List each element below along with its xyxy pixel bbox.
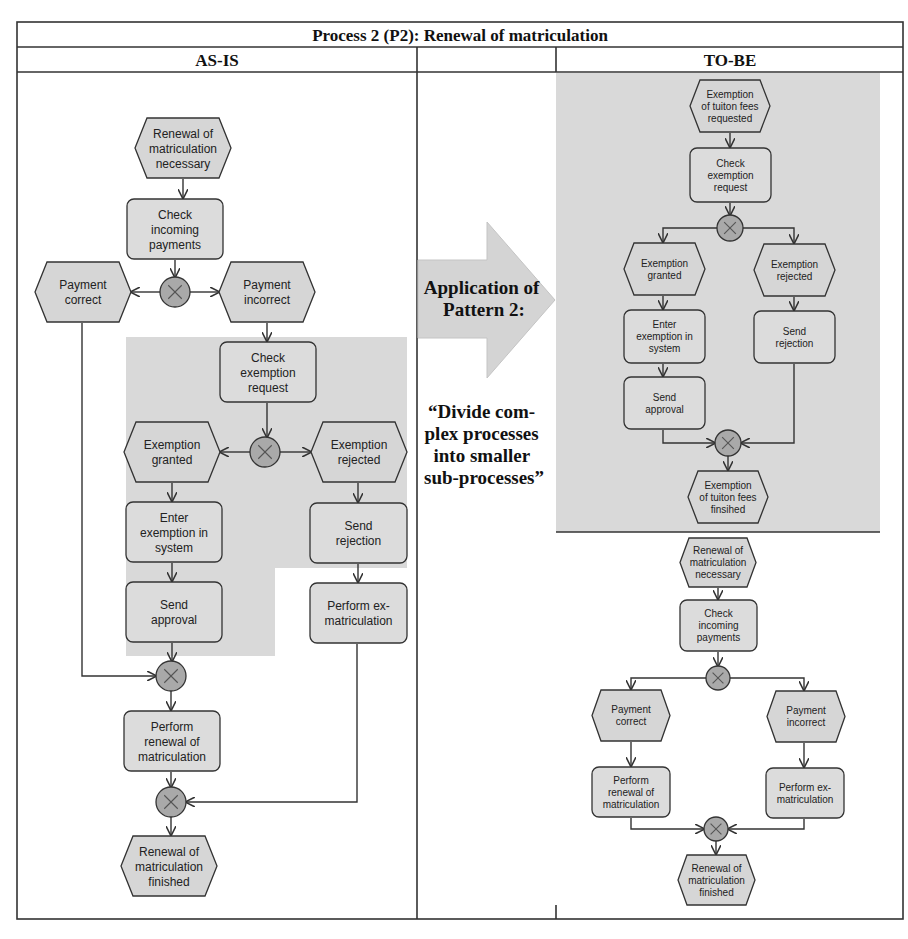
node-label-line: Check — [158, 208, 193, 222]
node-label-line: exemption — [707, 170, 753, 181]
tobe-top-function-send-rejection: Sendrejection — [754, 311, 835, 363]
event-shape — [219, 262, 315, 322]
node-label-line: Exemption — [704, 480, 751, 491]
node-label-line: matriculation — [603, 799, 660, 810]
node-label-line: rejection — [776, 338, 814, 349]
tobe-bottom-flow-arrow — [631, 678, 706, 689]
tobe-bottom-event-renewal-of-matriculation-necessary: Renewal ofmatriculationnecessary — [680, 538, 756, 587]
node-label-line: Enter — [653, 319, 678, 330]
asis-function-perform-ex-matriculation: Perform ex-matriculation — [310, 583, 407, 643]
node-label-line: renewal of — [608, 787, 654, 798]
node-label-line: request — [714, 182, 748, 193]
node-label-line: approval — [151, 613, 197, 627]
asis-event-exemption-granted: Exemptiongranted — [124, 422, 220, 482]
asis-event-payment-correct: Paymentcorrect — [35, 262, 131, 322]
node-label-line: payments — [697, 632, 740, 643]
node-label-line: granted — [648, 270, 682, 281]
node-label-line: Renewal of — [691, 863, 741, 874]
node-label: Renewal ofmatriculationnecessary — [690, 545, 747, 580]
node-label: Paymentincorrect — [786, 705, 826, 728]
arrow-label-line-2: Pattern 2: — [443, 299, 525, 320]
node-label-line: system — [649, 343, 681, 354]
pattern-arrow: Application of Pattern 2: “Divide com- p… — [418, 222, 555, 488]
node-label-line: exemption in — [140, 526, 208, 540]
asis-xor-gateway — [156, 787, 186, 817]
node-label-line: matriculation — [138, 750, 206, 764]
node-label-line: finished — [699, 887, 733, 898]
asis-function-check-exemption-request: Checkexemptionrequest — [220, 342, 316, 402]
node-label: Exemptionrejected — [771, 259, 818, 282]
process-comparison-diagram: Process 2 (P2): Renewal of matriculation… — [0, 0, 908, 939]
column-header-asis: AS-IS — [195, 51, 238, 70]
asis-event-renewal-of-matriculation-necessary: Renewal ofmatriculationnecessary — [135, 118, 231, 178]
asis-function-send-rejection: Sendrejection — [310, 503, 407, 563]
node-label-line: matriculation — [135, 860, 203, 874]
asis-event-exemption-rejected: Exemptionrejected — [311, 422, 407, 482]
node-label-line: requested — [708, 113, 752, 124]
node-label: Exemptionof tuiton feesrequested — [701, 89, 758, 124]
node-label-line: request — [248, 381, 289, 395]
asis-xor-gateway — [250, 437, 280, 467]
tobe-bottom-event-payment-incorrect: Paymentincorrect — [767, 691, 845, 742]
tobe-bottom-function-check-incoming-payments: Checkincomingpayments — [680, 600, 757, 651]
node-label-line: Send — [160, 598, 188, 612]
tobe-top-function-enter-exemption-in-system: Enterexemption insystem — [624, 310, 705, 363]
node-label: Paymentincorrect — [243, 278, 291, 307]
function-shape — [310, 583, 407, 643]
tobe-top-event-exemption-granted: Exemptiongranted — [624, 243, 705, 295]
node-label-line: incorrect — [244, 293, 291, 307]
node-label-line: necessary — [695, 569, 741, 580]
node-label-line: granted — [152, 453, 193, 467]
node-label-line: renewal of — [144, 735, 200, 749]
tobe-bottom-flow-arrow — [728, 819, 804, 829]
node-label-line: Renewal of — [693, 545, 743, 556]
tobe-top-highlight-region — [556, 73, 880, 532]
event-shape — [35, 262, 131, 322]
event-shape — [124, 422, 220, 482]
asis-xor-gateway — [160, 277, 190, 307]
node-label-line: of tuiton fees — [699, 492, 756, 503]
tobe-bottom-flow-arrow — [631, 818, 704, 829]
arrow-label-line-1: Application of — [424, 277, 540, 298]
node-label-line: exemption in — [636, 331, 693, 342]
asis-xor-gateway — [156, 661, 186, 691]
node-label-line: Send — [783, 326, 806, 337]
node-label: Perform ex-matriculation — [324, 599, 392, 628]
tobe-top-xor-gateway — [715, 430, 741, 456]
node-label-line: Send — [653, 392, 676, 403]
quote-line-2: plex processes — [425, 423, 539, 444]
node-label-line: Perform ex- — [327, 599, 390, 613]
node-label-line: Enter — [160, 511, 189, 525]
tobe-bottom-xor-gateway — [704, 817, 728, 841]
tobe-top-xor-gateway — [717, 215, 743, 241]
node-label-line: matriculation — [149, 142, 217, 156]
tobe-bottom-event-renewal-of-matriculation-finished: Renewal ofmatriculationfinished — [678, 855, 755, 905]
node-label-line: Payment — [786, 705, 826, 716]
node-label-line: rejection — [336, 534, 381, 548]
node-label-line: Renewal of — [153, 127, 214, 141]
node-label: Exemptiongranted — [144, 438, 201, 467]
node-label-line: matriculation — [324, 614, 392, 628]
tobe-top-event-exemption-rejected: Exemptionrejected — [754, 244, 835, 296]
node-label-line: matriculation — [688, 875, 745, 886]
node-label: Exemptiongranted — [641, 258, 688, 281]
tobe-bottom-function-perform-ex-matriculation: Perform ex-matriculation — [766, 768, 844, 818]
node-label: Renewal ofmatriculationnecessary — [149, 127, 217, 171]
node-label-line: Exemption — [706, 89, 753, 100]
node-label-line: system — [155, 541, 193, 555]
tobe-bottom-xor-gateway — [706, 666, 730, 690]
node-label-line: Payment — [243, 278, 291, 292]
node-label-line: Renewal of — [139, 845, 200, 859]
node-label-line: Payment — [611, 704, 651, 715]
node-label-line: Perform — [151, 720, 194, 734]
node-label-line: of tuiton fees — [701, 101, 758, 112]
tobe-top-event-exemption-of-tuiton-fees-finsihed: Exemptionof tuiton feesfinsihed — [688, 471, 768, 523]
node-label: Paymentcorrect — [611, 704, 651, 727]
table-title: Process 2 (P2): Renewal of matriculation — [312, 26, 608, 45]
node-label-line: correct — [65, 293, 102, 307]
node-label-line: approval — [645, 404, 683, 415]
column-header-tobe: TO-BE — [704, 51, 757, 70]
tobe-top-function-check-exemption-request: Checkexemptionrequest — [690, 148, 771, 202]
pattern-quote: “Divide com- plex processes into smaller… — [424, 401, 544, 488]
node-label-line: rejected — [777, 271, 813, 282]
